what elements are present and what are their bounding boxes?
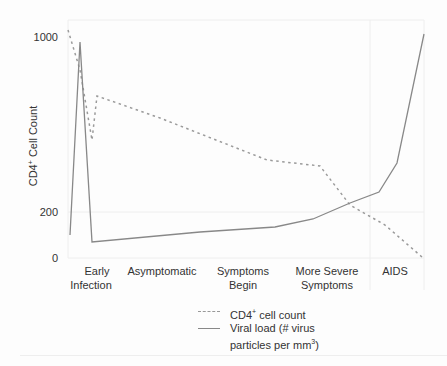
cd4-cell-count-line (68, 30, 422, 257)
viral-load-line (70, 34, 424, 242)
legend-item-cd4: CD4+ cell count (198, 305, 319, 322)
legend-cd4-label: CD4+ cell count (230, 305, 306, 322)
category-symptoms-begin-l2: Begin (229, 279, 257, 291)
dashed-line-swatch-icon (198, 305, 220, 318)
legend-item-viral-load: Viral load (# virus particles per mm3) (198, 322, 319, 352)
y-tick-0: 0 (52, 252, 58, 264)
bottom-divider (20, 355, 447, 356)
category-more-severe-l1: More Severe (296, 265, 359, 277)
category-aids: AIDS (382, 265, 408, 277)
category-more-severe-l2: Symptoms (301, 279, 353, 291)
y-axis-label: CD4+ Cell Count (27, 106, 39, 187)
y-tick-1000: 1000 (34, 31, 58, 43)
y-tick-200: 200 (40, 206, 58, 218)
legend-viral-label: Viral load (# virus particles per mm3) (230, 322, 319, 352)
category-early-infection-l1: Early (84, 265, 110, 277)
legend: CD4+ cell count Viral load (# virus part… (198, 305, 319, 351)
category-symptoms-begin-l1: Symptoms (217, 265, 269, 277)
solid-line-swatch-icon (198, 322, 220, 335)
category-early-infection-l2: Infection (70, 279, 112, 291)
category-asymptomatic: Asymptomatic (127, 265, 197, 277)
